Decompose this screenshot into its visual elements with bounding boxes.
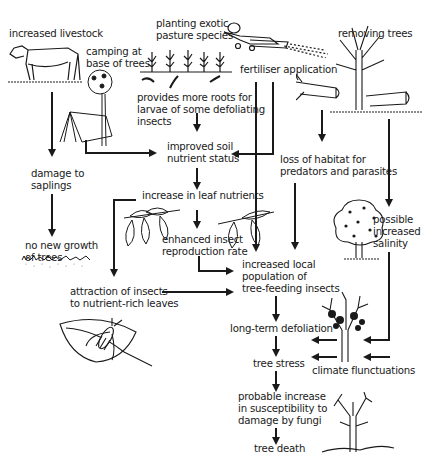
node-attraction-line1: attraction of insects xyxy=(70,286,168,298)
tent-and-tree-icon xyxy=(56,68,120,152)
node-removing-trees: removing trees xyxy=(338,28,412,40)
node-fertiliser-application: fertiliser application xyxy=(240,64,337,76)
node-salinity-line2: increased xyxy=(373,226,421,238)
node-habitat-line2: predators and parasites xyxy=(280,166,397,178)
insect-on-leaf-icon xyxy=(40,316,154,372)
node-planting-line2: pasture species xyxy=(156,30,233,42)
node-salinity-line3: salinity xyxy=(373,238,408,250)
node-climate-fluctuations: climate flunctuations xyxy=(312,365,415,377)
node-fungi-line1: probable increase xyxy=(238,391,326,403)
node-leaf-nutrients: increase in leaf nutrients xyxy=(142,190,264,202)
node-soil-line1: improved soil xyxy=(167,141,233,153)
node-population-line2: population of xyxy=(242,271,307,283)
node-population-line1: increased local xyxy=(242,259,315,271)
node-roots-line3: insects xyxy=(137,116,171,128)
node-roots-line2: larvae of some defoliating xyxy=(137,104,265,116)
pasture-plants-icon xyxy=(140,48,232,90)
node-camping-line1: camping at xyxy=(86,46,141,58)
node-nogrowth-line2: of trees xyxy=(25,252,62,264)
node-population-line3: tree-feeding insects xyxy=(242,283,340,295)
node-repro-line1: enhanced insect xyxy=(162,234,243,246)
dead-tree-icon xyxy=(320,392,396,454)
node-camping-line2: base of trees xyxy=(86,58,150,70)
node-salinity-line1: possible xyxy=(373,214,413,226)
node-attraction-line2: to nutrient-rich leaves xyxy=(70,298,178,310)
node-soil-line2: nutrient status xyxy=(167,153,239,165)
node-tree-stress: tree stress xyxy=(253,358,305,370)
node-damage-line1: damage to xyxy=(31,168,84,180)
node-habitat-line1: loss of habitat for xyxy=(280,154,366,166)
node-increased-livestock: increased livestock xyxy=(9,28,103,40)
node-fungi-line3: damage by fungi xyxy=(238,415,321,427)
node-repro-line2: reproduction rate xyxy=(162,246,247,258)
node-fungi-line2: in susceptibility to xyxy=(238,403,327,415)
node-long-term-defoliation: long-term defoliation xyxy=(230,323,333,335)
node-nogrowth-line1: no new growth xyxy=(25,240,98,252)
node-damage-line2: saplings xyxy=(31,180,71,192)
node-planting-line1: planting exotic xyxy=(156,18,228,30)
node-tree-death: tree death xyxy=(254,443,305,455)
node-roots-line1: provides more roots for xyxy=(137,92,252,104)
